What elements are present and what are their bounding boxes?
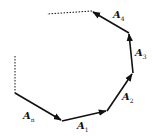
label-a3: A3 (135, 48, 147, 60)
label-a1: A1 (77, 121, 89, 133)
dotted-segment-top (47, 11, 92, 14)
vector-a3 (129, 34, 133, 73)
vector-an (15, 93, 61, 120)
label-a2: A2 (122, 92, 134, 104)
label-an: An (23, 111, 35, 123)
label-a4: A4 (113, 10, 125, 22)
